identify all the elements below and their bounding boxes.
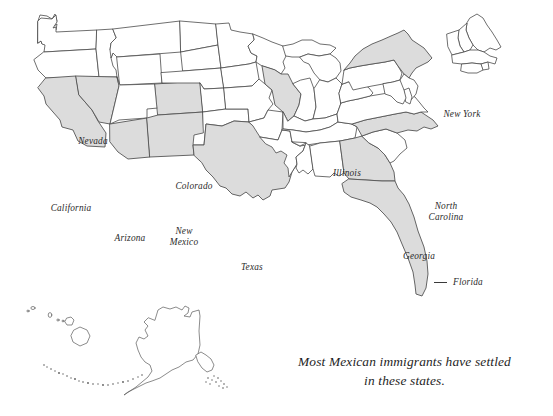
state-connecticut[interactable] bbox=[461, 63, 483, 73]
inset-alaska-panhandle[interactable] bbox=[196, 352, 214, 372]
state-washington-main[interactable] bbox=[38, 15, 97, 52]
inset-alaska[interactable] bbox=[124, 306, 200, 395]
state-oregon[interactable] bbox=[34, 49, 99, 78]
state-montana[interactable] bbox=[110, 21, 181, 58]
map-figure: Nevada California Arizona Colorado New M… bbox=[0, 0, 553, 416]
caption-line-2: in these states. bbox=[364, 373, 445, 388]
state-wyoming[interactable] bbox=[117, 54, 162, 85]
map-caption: Most Mexican immigrants have settled in … bbox=[262, 352, 547, 390]
florida-leader-line bbox=[434, 282, 447, 283]
state-alabama[interactable] bbox=[310, 141, 344, 177]
inset-hawaii[interactable] bbox=[27, 307, 90, 347]
state-michigan-lower[interactable] bbox=[300, 54, 341, 82]
state-florida[interactable] bbox=[342, 179, 428, 296]
inset-aleutian-islands bbox=[43, 364, 228, 389]
caption-line-1: Most Mexican immigrants have settled bbox=[298, 354, 511, 369]
state-colorado[interactable] bbox=[155, 81, 203, 115]
state-arizona[interactable] bbox=[110, 118, 150, 159]
